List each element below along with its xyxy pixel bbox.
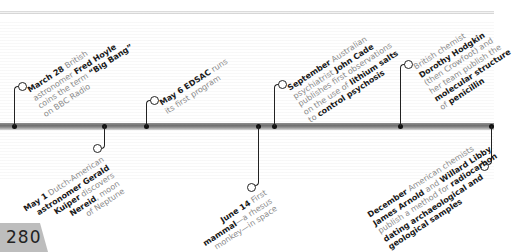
event-june14: June 14 Firstmammal—a rhesusmonkey—in sp…	[196, 188, 279, 252]
timeline-bar	[0, 123, 494, 130]
marker-ring-icon	[93, 144, 102, 153]
marker-ring-icon	[247, 183, 256, 192]
top-rule	[0, 11, 494, 14]
page-number: 280	[6, 227, 41, 247]
